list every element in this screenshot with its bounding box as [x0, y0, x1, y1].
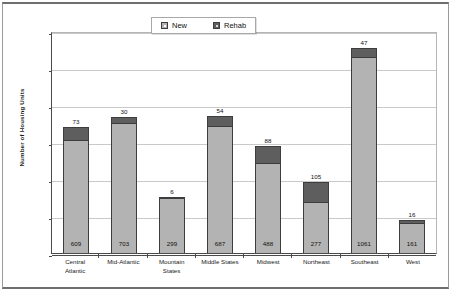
legend-swatch-rehab-icon: [213, 22, 220, 29]
bar-segment-new[interactable]: 703: [111, 123, 137, 253]
x-axis-label-line: Northeast: [292, 258, 340, 267]
bar-stack[interactable]: 16161: [399, 220, 425, 253]
x-axis-label-central-atlantic: CentralAtlantic: [51, 255, 99, 275]
data-label-rehab: 30: [100, 108, 148, 115]
x-axis-label-line: Middle States: [196, 258, 244, 267]
x-axis-label-line: Central: [51, 258, 99, 267]
data-label-rehab: 73: [52, 118, 100, 125]
bar-segment-rehab[interactable]: 88: [255, 146, 281, 162]
bar-stack[interactable]: 73609: [63, 127, 89, 253]
data-label-rehab: 47: [340, 39, 388, 46]
chart-legend: New Rehab: [151, 17, 256, 34]
data-label-rehab: 16: [388, 211, 436, 218]
data-label-new: 609: [64, 240, 88, 247]
data-label-new: 277: [304, 240, 328, 247]
bar-segment-new[interactable]: 488: [255, 163, 281, 253]
data-label-new: 1061: [352, 240, 376, 247]
x-axis-label-line: Atlantic: [51, 267, 99, 276]
bar-stack[interactable]: 54687: [207, 116, 233, 253]
x-axis-label-line: Mid-Atlantic: [99, 258, 147, 267]
bar-series-container: 7360930703629954687884881052774710611616…: [52, 33, 436, 253]
legend-label-new: New: [172, 21, 187, 30]
data-label-rehab: 54: [196, 107, 244, 114]
x-axis-label-line: Mountain: [148, 258, 196, 267]
data-label-new: 488: [256, 240, 280, 247]
bar-stack[interactable]: 30703: [111, 117, 137, 253]
bar-segment-rehab[interactable]: 105: [303, 182, 329, 201]
data-label-new: 703: [112, 240, 136, 247]
y-axis-title: Number of Housing Units: [18, 58, 25, 198]
bar-segment-rehab[interactable]: 47: [351, 48, 377, 57]
data-label-new: 161: [400, 240, 424, 247]
x-axis-label-line: West: [389, 258, 437, 267]
data-label-new: 687: [208, 240, 232, 247]
x-axis-label-line: States: [148, 267, 196, 276]
data-label-rehab: 6: [148, 188, 196, 195]
plot-area: 120010008006004002000 736093070362995468…: [51, 32, 437, 254]
bar-segment-new[interactable]: 277: [303, 202, 329, 253]
bar-stack[interactable]: 6299: [159, 197, 185, 253]
x-axis-label-northeast: Northeast: [292, 255, 340, 275]
legend-swatch-new-icon: [161, 22, 168, 29]
bar-group: 88488: [244, 33, 292, 253]
bar-stack[interactable]: 471061: [351, 48, 377, 253]
bar-segment-new[interactable]: 687: [207, 126, 233, 253]
bar-group: 30703: [100, 33, 148, 253]
legend-entry-new[interactable]: New: [161, 21, 187, 30]
data-label-rehab: 88: [244, 137, 292, 144]
bar-segment-new[interactable]: 609: [63, 140, 89, 253]
bar-group: 73609: [52, 33, 100, 253]
legend-entry-rehab[interactable]: Rehab: [213, 21, 246, 30]
x-axis-label-line: Southeast: [341, 258, 389, 267]
bar-group: 16161: [388, 33, 436, 253]
x-axis-labels: CentralAtlanticMid-AtlanticMountainState…: [51, 255, 437, 275]
data-label-new: 299: [160, 240, 184, 247]
x-axis-label-west: West: [389, 255, 437, 275]
bar-segment-rehab[interactable]: 73: [63, 127, 89, 141]
x-axis-label-line: Midwest: [244, 258, 292, 267]
chart-frame: Number of Housing Units New Rehab 120010…: [2, 2, 449, 289]
bar-group: 6299: [148, 33, 196, 253]
bar-stack[interactable]: 105277: [303, 182, 329, 253]
x-axis-label-mid-atlantic: Mid-Atlantic: [99, 255, 147, 275]
bar-segment-new[interactable]: 161: [399, 223, 425, 253]
x-axis-label-southeast: Southeast: [341, 255, 389, 275]
legend-label-rehab: Rehab: [224, 21, 246, 30]
bar-segment-new[interactable]: 299: [159, 198, 185, 253]
bar-group: 54687: [196, 33, 244, 253]
x-axis-label-midwest: Midwest: [244, 255, 292, 275]
x-axis-label-mountain-states: MountainStates: [148, 255, 196, 275]
bar-group: 105277: [292, 33, 340, 253]
bar-stack[interactable]: 88488: [255, 146, 281, 253]
data-label-rehab: 105: [292, 173, 340, 180]
bar-group: 471061: [340, 33, 388, 253]
bar-segment-rehab[interactable]: 54: [207, 116, 233, 126]
x-axis-label-middle-states: Middle States: [196, 255, 244, 275]
bar-segment-new[interactable]: 1061: [351, 57, 377, 253]
